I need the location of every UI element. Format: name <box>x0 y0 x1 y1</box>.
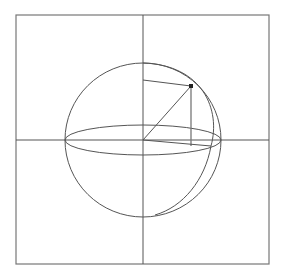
equatorial-projection-line <box>143 140 211 146</box>
horizontal-projection-line <box>143 80 191 86</box>
radius-line <box>143 86 191 140</box>
meridian-arc <box>143 63 214 215</box>
point-marker <box>189 84 193 88</box>
sphere-diagram <box>0 0 284 279</box>
